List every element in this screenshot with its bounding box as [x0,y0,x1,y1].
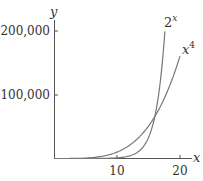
curve-2-pow-x [54,31,165,158]
label-2-pow-x: 2x [164,13,177,30]
label-x-pow-4-exp: 4 [189,40,195,50]
label-2-pow-x-base: 2 [164,15,172,30]
label-x-pow-4: x4 [182,40,195,57]
y-tick-label-100000: 100,000 [0,88,50,102]
x-tick-label-20: 20 [172,164,187,178]
y-axis-label: y [49,4,58,19]
y-tick-label-200000: 200,000 [0,24,50,38]
chart: y x 200,000 100,000 10 20 2x x4 [0,0,203,181]
x-tick-label-10: 10 [109,164,124,178]
label-2-pow-x-exp: x [172,13,177,23]
x-axis-label: x [193,150,201,165]
